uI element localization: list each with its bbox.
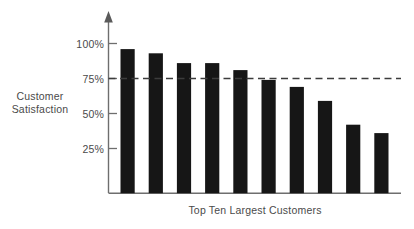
y-tick-label-100: 100% bbox=[76, 38, 104, 50]
y-tick-label-25: 25% bbox=[82, 143, 104, 155]
bar bbox=[149, 53, 163, 193]
y-tick-label-75: 75% bbox=[82, 73, 104, 85]
y-tick-label-50: 50% bbox=[82, 108, 104, 120]
bar bbox=[346, 125, 360, 194]
y-axis-title-line-1: Customer bbox=[16, 90, 63, 102]
bar bbox=[290, 87, 304, 193]
bar-chart: 100% 75% 50% 25% Customer Satisfaction T… bbox=[0, 0, 414, 229]
bar bbox=[374, 133, 388, 193]
bar bbox=[318, 101, 332, 193]
bar bbox=[205, 63, 219, 193]
y-axis-title: Customer Satisfaction bbox=[12, 90, 69, 115]
y-axis-title-line-2: Satisfaction bbox=[12, 103, 69, 115]
x-axis-title: Top Ten Largest Customers bbox=[188, 204, 321, 216]
chart-container: 100% 75% 50% 25% Customer Satisfaction T… bbox=[0, 0, 414, 229]
bar bbox=[121, 49, 135, 193]
bar bbox=[177, 63, 191, 193]
bar bbox=[262, 80, 276, 193]
bar bbox=[233, 70, 247, 193]
